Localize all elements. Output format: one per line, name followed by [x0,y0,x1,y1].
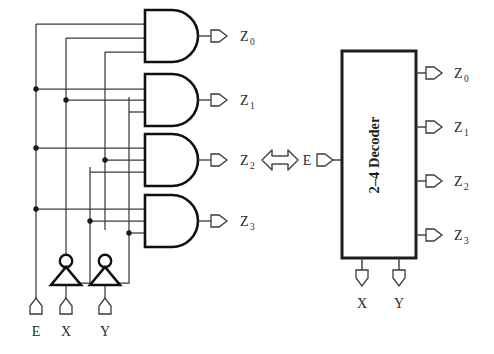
junction-e-z2 [33,145,38,150]
input-pin-y[interactable] [99,298,111,314]
block-output-pin-z0[interactable] [426,67,442,79]
block-enable-label: E [303,153,312,168]
inverter-x [51,255,81,285]
junction-xbar-z1 [63,97,68,102]
input-label-y: Y [100,324,110,339]
block-enable-pin[interactable] [317,154,333,166]
block-output-z2[interactable]: Z 2 [416,174,469,192]
block-output-z3[interactable]: Z 3 [416,228,469,246]
block-output-z0[interactable]: Z 0 [416,66,469,84]
block-output-pin-z1[interactable] [426,121,442,133]
block-input-label-x: X [357,296,367,311]
block-input-pin-x[interactable] [356,270,368,286]
input-terminal-e[interactable]: E [30,298,42,339]
block-input-pin-y[interactable] [393,270,405,286]
input-label-x: X [61,324,71,339]
output-pin-z3 [211,215,227,227]
and-gate-z1-output-label: Z [240,93,249,108]
junction-e-z1 [33,86,38,91]
wire-junctions [33,86,131,285]
and-gate-z0-output-sub: 0 [250,37,255,47]
block-output-sub-z2: 2 [464,182,469,192]
and-gate-z1: Z 1 [145,74,255,126]
junction-e-z3 [33,206,38,211]
input-pin-e[interactable] [30,298,42,314]
block-output-sub-z1: 1 [464,128,469,138]
block-output-label-z3: Z [454,228,463,243]
output-pin-z2 [211,154,227,166]
block-input-y[interactable]: Y [393,258,405,311]
input-terminal-x[interactable]: X [60,298,72,339]
equivalence-arrow-icon [262,150,298,170]
block-level-circuit: E 2–4 Decoder Z 0 Z 1 Z 2 Z [303,51,469,311]
decoder-box-label: 2–4 Decoder [366,116,382,193]
and-gate-z2-output-sub: 2 [250,161,255,171]
block-output-label-z1: Z [454,120,463,135]
inverter-y [90,255,120,285]
junction-y-z3 [126,230,131,235]
junction-ybar-z2 [102,157,107,162]
block-input-x[interactable]: X [356,258,368,311]
and-gate-z0-output-label: Z [240,29,249,44]
block-output-pin-z2[interactable] [426,175,442,187]
inverter-y-triangle [90,267,120,285]
inverter-x-triangle [51,267,81,285]
block-output-sub-z3: 3 [464,236,469,246]
junction-x-z3 [87,218,92,223]
wiring-bus [36,24,145,303]
decoder-diagram-svg: Z 0 Z 1 Z 2 Z 3 [0,0,494,354]
and-gate-z2: Z 2 [145,134,255,186]
and-gate-z3-output-label: Z [240,214,249,229]
input-pin-x[interactable] [60,298,72,314]
input-terminal-y[interactable]: Y [99,298,111,339]
block-output-z1[interactable]: Z 1 [416,120,469,138]
and-gate-z3: Z 3 [145,195,255,247]
and-gate-z0: Z 0 [145,10,255,62]
block-enable-input[interactable]: E [303,153,342,168]
block-input-label-y: Y [394,296,404,311]
and-gate-z2-output-label: Z [240,153,249,168]
input-label-e: E [32,324,41,339]
block-output-sub-z0: 0 [464,74,469,84]
output-pin-z0 [211,30,227,42]
gate-level-circuit: Z 0 Z 1 Z 2 Z 3 [30,10,255,339]
and-gate-z3-output-sub: 3 [250,222,255,232]
block-output-label-z0: Z [454,66,463,81]
and-gate-z1-output-sub: 1 [250,101,255,111]
output-pin-z1 [211,94,227,106]
block-output-label-z2: Z [454,174,463,189]
decoder-figure: Z 0 Z 1 Z 2 Z 3 [0,0,494,354]
block-output-pin-z3[interactable] [426,229,442,241]
